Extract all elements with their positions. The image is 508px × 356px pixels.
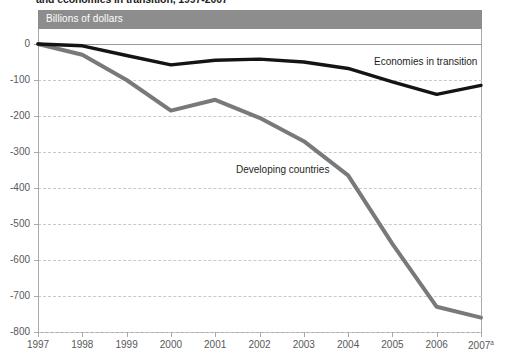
series-label-economies-in-transition: Economies in transition bbox=[374, 56, 477, 67]
gridline bbox=[38, 260, 482, 261]
document-title: and economies in transition, 1997-2007 bbox=[36, 0, 336, 7]
y-tick-label: -400 bbox=[0, 182, 30, 193]
y-tick-label: -800 bbox=[0, 326, 30, 337]
x-tick-mark bbox=[38, 332, 39, 337]
gridline bbox=[38, 80, 482, 81]
x-tick-label: 2007a bbox=[460, 339, 502, 351]
x-tick-mark bbox=[437, 332, 438, 337]
x-tick-label: 2004 bbox=[327, 339, 369, 350]
y-tick-label: -600 bbox=[0, 254, 30, 265]
series-lines bbox=[0, 0, 508, 356]
y-tick-label: -100 bbox=[0, 74, 30, 85]
y-tick-label: -200 bbox=[0, 110, 30, 121]
series-label-developing-countries: Developing countries bbox=[236, 164, 329, 175]
y-tick-label: -700 bbox=[0, 290, 30, 301]
x-tick-mark bbox=[260, 332, 261, 337]
y-tick-label: -300 bbox=[0, 146, 30, 157]
line-economies-in-transition bbox=[38, 44, 481, 94]
x-tick-mark bbox=[127, 332, 128, 337]
y-tick-mark bbox=[34, 188, 39, 189]
x-tick-mark bbox=[215, 332, 216, 337]
x-tick-mark bbox=[348, 332, 349, 337]
x-tick-label: 1997 bbox=[17, 339, 59, 350]
zero-baseline bbox=[38, 44, 482, 45]
y-tick-mark bbox=[34, 224, 39, 225]
x-tick-label: 1999 bbox=[106, 339, 148, 350]
x-tick-label: 2005 bbox=[371, 339, 413, 350]
units-band: Billions of dollars bbox=[38, 10, 482, 29]
units-band-label: Billions of dollars bbox=[46, 13, 123, 24]
x-tick-label: 2000 bbox=[150, 339, 192, 350]
x-tick-mark bbox=[171, 332, 172, 337]
y-tick-label: -500 bbox=[0, 218, 30, 229]
x-tick-mark bbox=[82, 332, 83, 337]
gridline bbox=[38, 224, 482, 225]
x-tick-mark bbox=[304, 332, 305, 337]
x-tick-mark bbox=[392, 332, 393, 337]
y-tick-mark bbox=[34, 260, 39, 261]
x-tick-mark bbox=[481, 332, 482, 337]
gridline bbox=[38, 116, 482, 117]
y-tick-mark bbox=[34, 152, 39, 153]
x-tick-label: 2001 bbox=[194, 339, 236, 350]
chart-figure: and economies in transition, 1997-2007 B… bbox=[0, 0, 508, 356]
gridline bbox=[38, 152, 482, 153]
y-tick-mark bbox=[34, 80, 39, 81]
x-tick-label: 1998 bbox=[61, 339, 103, 350]
y-tick-mark bbox=[34, 296, 39, 297]
x-tick-label: 2006 bbox=[416, 339, 458, 350]
x-tick-label: 2002 bbox=[239, 339, 281, 350]
y-tick-mark bbox=[34, 116, 39, 117]
gridline bbox=[38, 296, 482, 297]
line-developing-countries bbox=[38, 44, 481, 318]
plot-right-border bbox=[481, 29, 482, 332]
gridline bbox=[38, 188, 482, 189]
x-tick-label: 2003 bbox=[283, 339, 325, 350]
y-axis-line bbox=[38, 29, 39, 332]
y-tick-label: 0 bbox=[0, 38, 30, 49]
